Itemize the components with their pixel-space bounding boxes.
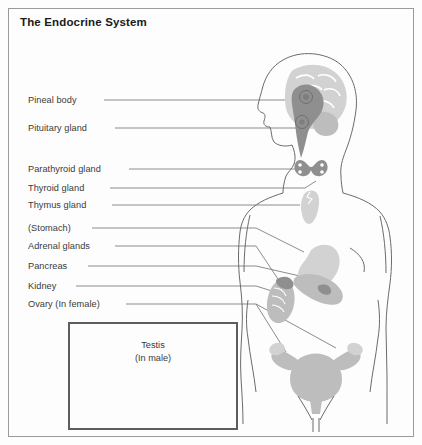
figure-page: The Endocrine System .ol { fill:none; st… (0, 0, 422, 445)
label-stomach: (Stomach) (28, 223, 71, 233)
label-ovary-in-female: Ovary (In female) (28, 299, 100, 309)
testis-inset-box (68, 322, 238, 430)
label-thymus-gland: Thymus gland (28, 200, 86, 210)
label-pineal-body: Pineal body (28, 95, 77, 105)
label-pancreas: Pancreas (28, 261, 67, 271)
label-parathyroid-gland: Parathyroid gland (28, 164, 101, 174)
page-title: The Endocrine System (20, 16, 147, 28)
inset-title-line1: Testis (118, 340, 188, 350)
label-pituitary-gland: Pituitary gland (28, 123, 87, 133)
label-adrenal-glands: Adrenal glands (28, 241, 90, 251)
inset-title-line2: (In male) (118, 353, 188, 363)
label-thyroid-gland: Thyroid gland (28, 183, 84, 193)
label-kidney: Kidney (28, 281, 56, 291)
